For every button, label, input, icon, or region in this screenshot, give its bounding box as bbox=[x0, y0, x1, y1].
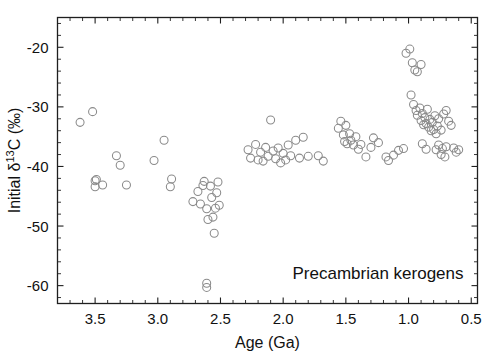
data-point bbox=[99, 181, 107, 189]
x-tick-label: 0.5 bbox=[461, 310, 482, 327]
data-point bbox=[295, 154, 303, 162]
data-point bbox=[168, 175, 176, 183]
data-point bbox=[314, 152, 322, 160]
data-point bbox=[374, 139, 382, 147]
data-point bbox=[254, 156, 262, 164]
plot-canvas: 3.53.02.52.01.51.00.5-20-30-40-50-60Age … bbox=[0, 0, 494, 359]
x-axis-title: Age (Ga) bbox=[235, 334, 300, 351]
data-point bbox=[407, 91, 415, 99]
data-point bbox=[244, 146, 252, 154]
data-point bbox=[160, 136, 168, 144]
data-point bbox=[354, 145, 362, 153]
data-point bbox=[417, 61, 425, 69]
data-point bbox=[357, 140, 365, 148]
data-point bbox=[257, 148, 265, 156]
data-point bbox=[76, 118, 84, 126]
data-point bbox=[204, 215, 212, 223]
data-point bbox=[264, 152, 272, 160]
data-point bbox=[122, 181, 130, 189]
data-point bbox=[213, 189, 221, 197]
data-point bbox=[423, 105, 431, 113]
data-point bbox=[150, 157, 158, 165]
y-tick-label: -50 bbox=[27, 218, 49, 235]
scatter-chart-figure: 3.53.02.52.01.51.00.5-20-30-40-50-60Age … bbox=[0, 0, 494, 359]
chart-annotation: Precambrian kerogens bbox=[292, 264, 463, 283]
data-point bbox=[299, 133, 307, 141]
data-markers-group bbox=[76, 45, 463, 291]
data-point bbox=[395, 146, 403, 154]
data-point bbox=[455, 146, 463, 154]
y-tick-label: -60 bbox=[27, 277, 49, 294]
x-tick-label: 2.5 bbox=[210, 310, 231, 327]
data-point bbox=[337, 117, 345, 125]
x-tick-label: 3.0 bbox=[147, 310, 168, 327]
y-tick-label: -30 bbox=[27, 98, 49, 115]
data-point bbox=[319, 157, 327, 165]
data-point bbox=[304, 152, 312, 160]
y-axis-title: Initial δ13C (‰) bbox=[4, 108, 23, 214]
data-point bbox=[116, 161, 124, 169]
data-point bbox=[267, 116, 275, 124]
data-point bbox=[247, 154, 255, 162]
y-tick-label: -20 bbox=[27, 39, 49, 56]
data-point bbox=[166, 183, 174, 191]
data-point bbox=[287, 152, 295, 160]
x-tick-label: 1.0 bbox=[398, 310, 419, 327]
data-point bbox=[203, 205, 211, 213]
data-point bbox=[259, 157, 267, 165]
data-point bbox=[390, 151, 398, 159]
x-tick-label: 2.0 bbox=[273, 310, 294, 327]
data-point bbox=[89, 108, 97, 116]
y-tick-label: -40 bbox=[27, 158, 49, 175]
data-point bbox=[292, 136, 300, 144]
data-point bbox=[369, 134, 377, 142]
data-point bbox=[189, 198, 197, 206]
data-point bbox=[206, 182, 214, 190]
data-point bbox=[400, 145, 408, 153]
data-point bbox=[262, 143, 270, 151]
data-point bbox=[112, 152, 120, 160]
data-point bbox=[209, 213, 217, 221]
data-point bbox=[362, 153, 370, 161]
data-point bbox=[272, 155, 280, 163]
data-point bbox=[284, 141, 292, 149]
x-tick-label: 3.5 bbox=[85, 310, 106, 327]
data-point bbox=[214, 178, 222, 186]
data-point bbox=[422, 145, 430, 153]
data-point bbox=[418, 140, 426, 148]
data-point bbox=[210, 229, 218, 237]
data-point bbox=[367, 143, 375, 151]
data-point bbox=[252, 140, 260, 148]
data-point bbox=[342, 121, 350, 129]
data-point bbox=[208, 193, 216, 201]
x-tick-label: 1.5 bbox=[335, 310, 356, 327]
